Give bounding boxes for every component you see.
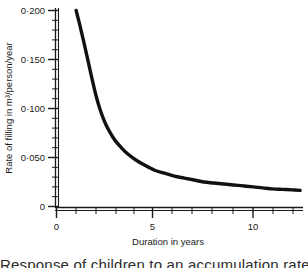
y-tick-label-0050: 0·050 <box>21 152 45 163</box>
y-tick-label-0: 0 <box>40 201 45 212</box>
x-axis-title: Duration in years <box>132 236 204 247</box>
x-tick-label-5: 5 <box>150 221 155 232</box>
y-tick-label-0200: 0·200 <box>21 5 45 16</box>
x-tick-label-10: 10 <box>248 221 259 232</box>
figure-caption-clipped: Response of children to an accumulation … <box>0 256 308 268</box>
y-tick-label-0150: 0·150 <box>21 54 45 65</box>
y-tick-label-0100: 0·100 <box>21 103 45 114</box>
x-tick-label-0: 0 <box>54 221 59 232</box>
y-axis-title: Rate of filling in m³/person/year <box>3 42 14 173</box>
